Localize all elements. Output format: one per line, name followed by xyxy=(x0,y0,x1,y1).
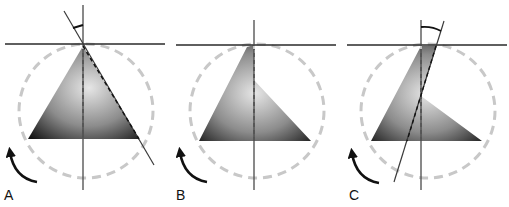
panel-b xyxy=(176,20,336,190)
rotated-shape xyxy=(371,46,482,141)
panel-a xyxy=(5,5,165,190)
panel-c xyxy=(347,20,507,190)
figure-canvas xyxy=(0,0,509,207)
rotation-arrow-icon xyxy=(180,152,207,182)
angle-marker xyxy=(73,25,83,28)
rotation-arrow-icon xyxy=(352,153,379,183)
panel-label-a: A xyxy=(4,188,13,202)
angle-marker xyxy=(421,27,441,31)
rotation-arrow-icon xyxy=(10,152,37,182)
panel-label-c: C xyxy=(349,188,359,202)
panel-label-b: B xyxy=(176,188,185,202)
